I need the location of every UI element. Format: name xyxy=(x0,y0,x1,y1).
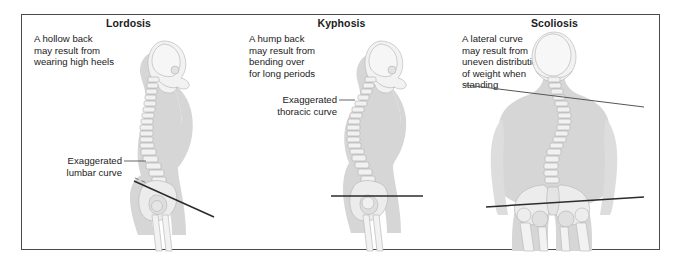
lordosis-femur xyxy=(152,215,172,251)
figure-lordosis xyxy=(22,15,235,251)
kyphosis-femur xyxy=(363,215,383,251)
panel-scoliosis: Scoliosis A lateral curve may result fro… xyxy=(448,15,661,249)
diagram-frame: Lordosis A hollow back may result from w… xyxy=(21,14,660,250)
scoliosis-skull xyxy=(532,32,576,82)
diagram-canvas: Lordosis A hollow back may result from w… xyxy=(0,0,679,266)
figure-scoliosis xyxy=(448,15,661,251)
panel-kyphosis: Kyphosis A hump back may result from ben… xyxy=(235,15,448,249)
figure-kyphosis xyxy=(235,15,448,251)
scoliosis-femur xyxy=(520,223,590,251)
panel-lordosis: Lordosis A hollow back may result from w… xyxy=(22,15,235,249)
scoliosis-pelvis xyxy=(514,185,589,227)
